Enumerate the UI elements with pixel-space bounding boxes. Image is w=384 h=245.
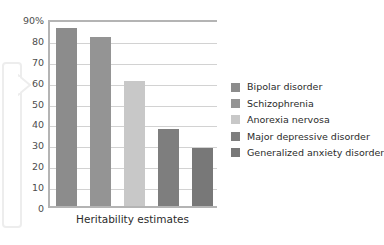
legend-label: Schizophrenia — [247, 99, 314, 109]
legend-swatch-icon — [231, 132, 240, 141]
bar-2 — [90, 37, 111, 206]
legend-swatch-icon — [231, 148, 240, 157]
bar-1 — [56, 28, 77, 206]
y-tick-10: 10 — [32, 183, 44, 193]
legend-swatch-icon — [231, 115, 240, 124]
legend-swatch-icon — [231, 99, 240, 108]
y-tick-60: 60 — [32, 79, 44, 89]
y-tick-90: 90% — [23, 16, 44, 26]
legend-item-1: Bipolar disorder — [231, 79, 384, 95]
legend-label: Bipolar disorder — [247, 82, 322, 92]
bar-4 — [158, 129, 179, 206]
chart-legend: Bipolar disorderSchizophreniaAnorexia ne… — [231, 79, 384, 161]
y-tick-70: 70 — [32, 58, 44, 68]
legend-label: Generalized anxiety disorder — [247, 148, 384, 158]
legend-label: Anorexia nervosa — [247, 115, 330, 125]
plot-area — [48, 20, 217, 208]
legend-label: Major depressive disorder — [247, 132, 370, 142]
y-tick-50: 50 — [32, 100, 44, 110]
bars-group — [50, 22, 217, 206]
legend-item-3: Anorexia nervosa — [231, 112, 384, 128]
y-tick-0: 0 — [38, 204, 44, 214]
legend-swatch-icon — [231, 83, 240, 92]
y-tick-40: 40 — [32, 120, 44, 130]
y-axis-tick-labels: 0102030405060708090% — [0, 0, 44, 245]
y-tick-80: 80 — [32, 37, 44, 47]
bar-5 — [192, 148, 213, 206]
legend-item-5: Generalized anxiety disorder — [231, 145, 384, 161]
y-tick-20: 20 — [32, 162, 44, 172]
legend-item-4: Major depressive disorder — [231, 128, 384, 144]
legend-item-2: Schizophrenia — [231, 95, 384, 111]
x-axis-label: Heritability estimates — [48, 213, 217, 225]
bar-3 — [124, 81, 145, 206]
y-tick-30: 30 — [32, 141, 44, 151]
